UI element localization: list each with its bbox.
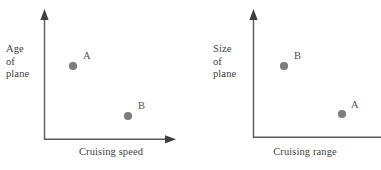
left-data-point-b	[124, 112, 132, 120]
right-y-axis-arrowhead	[249, 9, 257, 20]
left-y-axis-arrowhead	[40, 9, 48, 20]
right-data-point-a	[338, 110, 346, 118]
chart-panel-size-vs-cruising-range: Sizeofplane Cruising range B A	[190, 0, 381, 170]
left-y-axis-label-line3: plane	[6, 68, 29, 79]
right-data-point-b	[280, 62, 288, 70]
right-x-axis-label: Cruising range	[252, 146, 358, 159]
left-y-axis-label: Ageofplane	[6, 43, 29, 81]
right-point-label-a: A	[351, 99, 359, 110]
right-plot-canvas	[190, 0, 381, 170]
right-point-label-b: B	[294, 50, 301, 61]
right-y-axis-label-line1: Size	[213, 43, 231, 54]
left-data-point-a	[69, 62, 77, 70]
chart-panel-age-vs-cruising-speed: Ageofplane Cruising speed A B	[0, 0, 190, 170]
right-y-axis-label: Sizeofplane	[213, 43, 236, 81]
left-y-axis-label-line1: Age	[6, 43, 24, 54]
left-x-axis-arrowhead	[165, 135, 176, 143]
left-point-label-b: B	[138, 100, 145, 111]
right-y-axis-label-line3: plane	[213, 68, 236, 79]
left-y-axis-label-line2: of	[6, 56, 15, 67]
two-panel-scatter-figure: Ageofplane Cruising speed A B Sizeofplan…	[0, 0, 381, 170]
left-x-axis-label: Cruising speed	[58, 146, 164, 159]
left-point-label-a: A	[83, 50, 91, 61]
right-y-axis-label-line2: of	[213, 56, 222, 67]
left-plot-canvas	[0, 0, 190, 170]
